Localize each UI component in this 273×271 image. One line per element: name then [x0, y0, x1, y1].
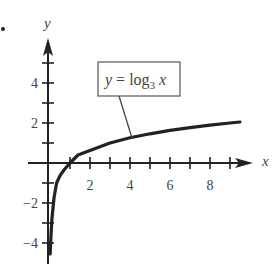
- svg-text:−4: −4: [23, 236, 38, 251]
- svg-text:2: 2: [87, 178, 94, 193]
- svg-text:4: 4: [31, 76, 38, 91]
- log-chart: y x 2 4 6 8 4 2 −2 −4: [0, 0, 273, 271]
- x-tick-labels: 2 4 6 8: [87, 178, 214, 193]
- x-axis-label: x: [261, 153, 269, 169]
- svg-text:−2: −2: [23, 196, 38, 211]
- svg-text:4: 4: [127, 178, 134, 193]
- svg-text:6: 6: [167, 178, 174, 193]
- svg-text:8: 8: [207, 178, 214, 193]
- bullet-dot: [1, 27, 5, 31]
- legend-pointer: [119, 96, 132, 138]
- svg-text:2: 2: [31, 116, 38, 131]
- y-axis-label: y: [42, 15, 51, 31]
